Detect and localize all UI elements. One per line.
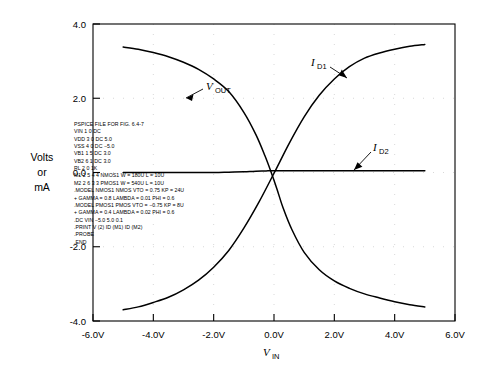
vout-arrowhead	[186, 95, 194, 102]
x-tick-label: 2.0V	[325, 329, 345, 340]
y-axis-title-line-3: mA	[34, 181, 50, 193]
id2-label-main: I	[372, 141, 378, 153]
spice-transfer-characteristic-figure: 4.0 2.0 0.0 -2.0 -4.0 -6.0V -4.0V -2.0V …	[0, 0, 477, 367]
netlist-line: VB1 1 5 DC 3.0	[74, 150, 111, 156]
spice-netlist-text: PSPICE FILE FOR FIG. 6.4-7VIN 1 0 DCVDD …	[74, 121, 184, 245]
y-axis-title-line-2: or	[37, 166, 47, 178]
netlist-line: .PRINT V (2) ID (M1) ID (M2)	[74, 224, 143, 230]
curve-vout	[123, 47, 425, 307]
netlist-line: RL 2 0 1K	[74, 165, 98, 171]
id2-arrowhead	[354, 162, 362, 170]
y-tick-label: 2.0	[73, 93, 86, 104]
x-axis-title: V IN	[263, 346, 280, 361]
netlist-line: .MODEL PMOS1 PMOS VTO = −0.75 KP = 8U	[74, 202, 184, 208]
id1-label-sub: D1	[317, 62, 327, 71]
y-axis-title-line-1: Volts	[31, 151, 54, 163]
netlist-line: .PROBE	[74, 231, 94, 237]
x-axis-title-main: V	[263, 346, 271, 358]
netlist-line: VIN 1 0 DC	[74, 128, 101, 134]
id2-label-sub: D2	[379, 147, 389, 156]
id1-label-main: I	[310, 56, 316, 68]
x-tick-label: 6.0V	[445, 329, 465, 340]
netlist-line: PSPICE FILE FOR FIG. 6.4-7	[74, 121, 144, 127]
x-tick-label: -6.0V	[82, 329, 105, 340]
chart-svg: 4.0 2.0 0.0 -2.0 -4.0 -6.0V -4.0V -2.0V …	[0, 0, 477, 367]
x-tick-label: -2.0V	[202, 329, 225, 340]
netlist-line: VB2 6 1 DC 3.0	[74, 158, 111, 164]
x-axis-ticks	[93, 314, 455, 321]
x-tick-label: 0.0V	[264, 329, 284, 340]
vout-label-main: V	[206, 80, 214, 92]
vout-label-sub: OUT	[215, 86, 231, 95]
netlist-line: .END	[74, 239, 87, 245]
netlist-line: M1 2 5 4 4 NMOS1 W = 180U L = 10U	[74, 172, 164, 178]
netlist-line: + GAMMA = 0.8 LAMBDA = 0.01 PHI = 0.6	[74, 195, 175, 201]
netlist-line: VDD 3 0 DC 5.0	[74, 136, 112, 142]
y-tick-label: -4.0	[70, 316, 86, 327]
netlist-line: + GAMMA = 0.4 LAMBDA = 0.02 PHI = 0.6	[74, 209, 175, 215]
netlist-line: .DC VIN −5.0 5.0 0.1	[74, 217, 123, 223]
x-tick-label: -4.0V	[142, 329, 165, 340]
netlist-line: VSS 4 0 DC −5.0	[74, 143, 114, 149]
x-tick-label: 4.0V	[385, 329, 405, 340]
x-tick-labels: -6.0V -4.0V -2.0V 0.0V 2.0V 4.0V 6.0V	[82, 329, 466, 340]
y-tick-label: 4.0	[73, 19, 86, 30]
netlist-line: .MODEL NMOS1 NMOS VTO = 0.75 KP = 24U	[74, 187, 184, 193]
netlist-line: M2 2 6 3 3 PMOS1 W = 540U L = 10U	[74, 180, 164, 186]
x-axis-title-sub: IN	[272, 352, 280, 361]
curve-annotations: V OUT I D1 I D2	[206, 56, 389, 156]
y-axis-title: Volts or mA	[31, 151, 54, 193]
